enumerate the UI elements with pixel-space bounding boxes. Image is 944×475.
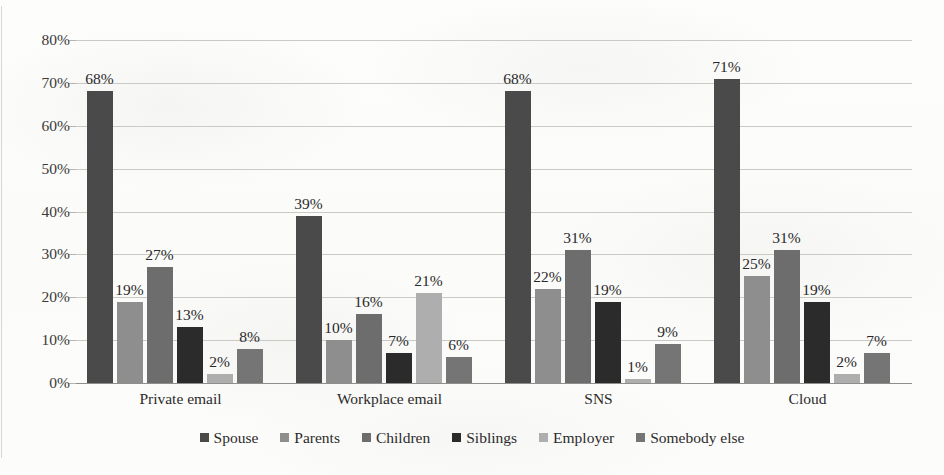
y-axis-tick-label: 20%	[10, 289, 70, 305]
y-axis-tick-label: 0%	[10, 375, 70, 391]
legend-swatch-icon	[200, 433, 209, 442]
bar	[535, 289, 561, 383]
legend-label: Somebody else	[650, 430, 744, 446]
bar-chart-figure: 80%70%60%50%40%30%20%10%0% 68%19%27%13%2…	[0, 0, 944, 475]
bar-value-label: 10%	[313, 320, 365, 336]
y-axis-tick-label: 50%	[10, 161, 70, 177]
bar	[326, 340, 352, 383]
legend-item[interactable]: Children	[362, 430, 430, 446]
y-axis-tick-label: 80%	[10, 32, 70, 48]
bar-value-label: 21%	[403, 273, 455, 289]
legend-swatch-icon	[539, 433, 548, 442]
x-axis-category-label: Cloud	[718, 390, 898, 408]
bar-value-label: 39%	[283, 196, 335, 212]
legend-item[interactable]: Employer	[539, 430, 614, 446]
bar-value-label: 2%	[194, 354, 246, 370]
bar-value-label: 22%	[522, 269, 574, 285]
legend-label: Children	[376, 430, 430, 446]
bar	[207, 374, 233, 383]
bar	[834, 374, 860, 383]
bar	[625, 379, 651, 383]
legend-swatch-icon	[636, 433, 645, 442]
gridline	[76, 169, 912, 170]
legend-label: Parents	[294, 430, 340, 446]
bar-value-label: 13%	[164, 307, 216, 323]
legend-swatch-icon	[280, 433, 289, 442]
legend-label: Siblings	[466, 430, 517, 446]
y-axis-tick-label: 10%	[10, 332, 70, 348]
x-axis-category-label: Workplace email	[300, 390, 480, 408]
gridline	[76, 126, 912, 127]
x-axis-category-label: Private email	[91, 390, 271, 408]
x-axis-baseline	[76, 383, 912, 384]
gridline	[76, 212, 912, 213]
bar	[505, 91, 531, 383]
bar	[744, 276, 770, 383]
bar-value-label: 68%	[492, 71, 544, 87]
bar	[804, 302, 830, 383]
y-axis-tick-label: 70%	[10, 75, 70, 91]
bar-value-label: 19%	[791, 282, 843, 298]
y-axis-tick-label: 60%	[10, 118, 70, 134]
bar	[386, 353, 412, 383]
legend-item[interactable]: Spouse	[200, 430, 259, 446]
gridline	[76, 40, 912, 41]
bar	[446, 357, 472, 383]
bar-value-label: 27%	[134, 247, 186, 263]
legend-swatch-icon	[452, 433, 461, 442]
legend-item[interactable]: Siblings	[452, 430, 517, 446]
bar	[117, 302, 143, 383]
x-axis-category-label: SNS	[509, 390, 689, 408]
bar-value-label: 2%	[821, 354, 873, 370]
plot-area: 80%70%60%50%40%30%20%10%0% 68%19%27%13%2…	[0, 0, 944, 420]
bar-value-label: 9%	[642, 324, 694, 340]
legend-label: Spouse	[214, 430, 259, 446]
legend-item[interactable]: Parents	[280, 430, 340, 446]
bar-value-label: 31%	[761, 230, 813, 246]
bar-value-label: 8%	[224, 329, 276, 345]
legend-item[interactable]: Somebody else	[636, 430, 744, 446]
bar-value-label: 7%	[851, 333, 903, 349]
chart-legend: SpouseParentsChildrenSiblingsEmployerSom…	[0, 430, 944, 446]
bar-value-label: 19%	[104, 282, 156, 298]
bar-value-label: 31%	[552, 230, 604, 246]
y-axis-tick-label: 40%	[10, 204, 70, 220]
bar-value-label: 68%	[74, 71, 126, 87]
legend-label: Employer	[553, 430, 614, 446]
bar-value-label: 71%	[701, 59, 753, 75]
bar-value-label: 1%	[612, 359, 664, 375]
y-axis-tick-label: 30%	[10, 246, 70, 262]
legend-swatch-icon	[362, 433, 371, 442]
bar-value-label: 25%	[731, 256, 783, 272]
bar	[714, 79, 740, 383]
bar-value-label: 16%	[343, 294, 395, 310]
bar	[87, 91, 113, 383]
bar-value-label: 7%	[373, 333, 425, 349]
bar	[296, 216, 322, 383]
bar-value-label: 19%	[582, 282, 634, 298]
bar-value-label: 6%	[433, 337, 485, 353]
